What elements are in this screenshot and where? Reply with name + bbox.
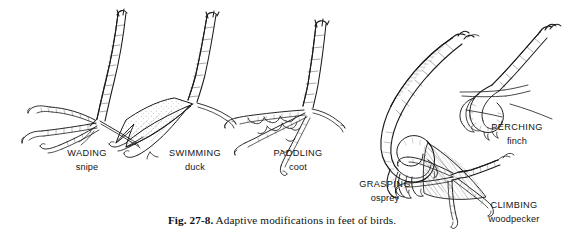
figure-adaptive-bird-feet: WADING snipe SWIMMING duck PADDLING coot… bbox=[0, 0, 564, 239]
label-swimming-bird: duck bbox=[140, 162, 250, 174]
figure-caption-text: Adaptive modifications in feet of birds. bbox=[213, 214, 396, 226]
label-swimming: SWIMMING duck bbox=[140, 148, 250, 173]
foot-swimming-duck bbox=[109, 11, 236, 159]
label-paddling: PADDLING coot bbox=[243, 148, 353, 173]
figure-caption: Fig. 27-8. Adaptive modifications in fee… bbox=[0, 214, 564, 226]
label-swimming-mode: SWIMMING bbox=[140, 148, 250, 160]
label-grasping: GRASPING osprey bbox=[335, 179, 435, 204]
label-perching-mode: PERCHING bbox=[470, 122, 564, 134]
label-perching: PERCHING finch bbox=[470, 122, 564, 147]
label-grasping-bird: osprey bbox=[335, 193, 435, 205]
label-wading-bird: snipe bbox=[32, 162, 142, 174]
label-paddling-mode: PADDLING bbox=[243, 148, 353, 160]
label-paddling-bird: coot bbox=[243, 162, 353, 174]
label-climbing-mode: CLIMBING bbox=[464, 200, 564, 212]
label-wading-mode: WADING bbox=[32, 148, 142, 160]
label-grasping-mode: GRASPING bbox=[335, 179, 435, 191]
label-wading: WADING snipe bbox=[32, 148, 142, 173]
figure-number: Fig. 27-8. bbox=[168, 214, 213, 226]
label-perching-bird: finch bbox=[470, 136, 564, 148]
